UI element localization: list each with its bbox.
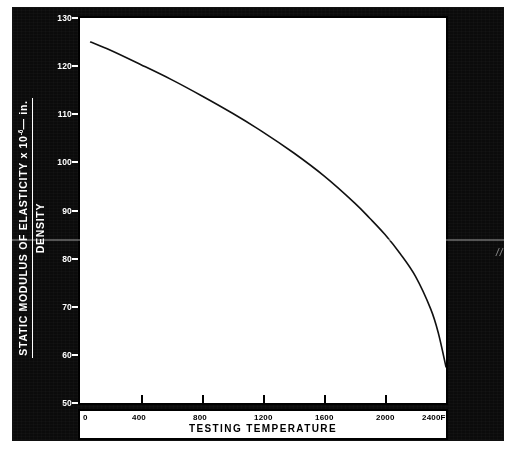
series-line-static-modulus — [91, 42, 446, 367]
x-axis-tick-label: 1200 — [254, 413, 273, 422]
x-axis-tick-label: 2400F — [422, 413, 446, 422]
y-axis-tick-label: 70 — [46, 303, 72, 312]
y-axis-tick-labels: 1301201101009080706050 — [42, 0, 72, 456]
y-axis-tick-label: 60 — [46, 351, 72, 360]
x-axis-tick-mark — [324, 395, 326, 403]
plate-corner-mark: // — [496, 247, 504, 258]
y-axis-tick-label: 120 — [46, 62, 72, 71]
y-axis-tick-label: 130 — [46, 14, 72, 23]
y-axis-title-exponent: -6 — [17, 130, 24, 136]
y-axis-tick-label: 100 — [46, 158, 72, 167]
y-axis-title-numerator-tail: — in. — [17, 100, 29, 129]
x-axis-title: TESTING TEMPERATURE — [80, 423, 446, 434]
y-axis-tick-label: 110 — [46, 110, 72, 119]
y-axis-tick-label: 90 — [46, 207, 72, 216]
x-axis-band: 04008001200160020002400F TESTING TEMPERA… — [78, 409, 448, 440]
plot-panel — [78, 16, 448, 405]
x-axis-tick-mark — [263, 395, 265, 403]
x-axis-tick-mark — [385, 395, 387, 403]
curve-svg — [80, 18, 446, 403]
figure-root: STATIC MODULUS OF ELASTICITY x 10-6— in.… — [0, 0, 515, 456]
x-axis-tick-label: 1600 — [315, 413, 334, 422]
x-axis-tick-label: 0 — [83, 413, 88, 422]
x-axis-tick-label: 800 — [193, 413, 207, 422]
x-axis-tick-label: 2000 — [376, 413, 395, 422]
x-axis-tick-mark — [141, 395, 143, 403]
y-axis-title-numerator-text: STATIC MODULUS OF ELASTICITY x 10 — [17, 135, 29, 355]
y-axis-title-numerator: STATIC MODULUS OF ELASTICITY x 10-6— in. — [18, 98, 31, 357]
x-axis-tick-label: 400 — [132, 413, 146, 422]
plot-area — [80, 18, 446, 403]
y-axis-tick-label: 80 — [46, 255, 72, 264]
fraction-bar — [32, 98, 34, 357]
x-axis-tick-mark — [202, 395, 204, 403]
y-axis-tick-label: 50 — [46, 399, 72, 408]
